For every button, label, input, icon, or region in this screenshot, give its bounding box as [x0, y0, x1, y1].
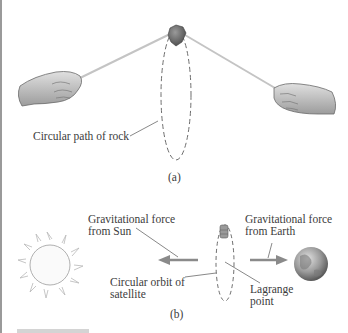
sun-force-label-line2: from Sun: [88, 225, 175, 237]
rock-path-label: Circular path of rock: [33, 130, 129, 142]
rock-icon: [168, 25, 186, 46]
string-right: [185, 35, 275, 88]
earth-force-label-line1: Gravitational force: [245, 213, 332, 225]
sun-force-label: Gravitational force from Sun: [88, 213, 175, 237]
rock-path-ellipse: [161, 30, 191, 160]
lagrange-point-label: Lagrange point: [250, 283, 293, 307]
lagrange-label-line2: point: [250, 295, 293, 307]
rock-path-leader-line: [130, 121, 158, 136]
orbit-label: Circular orbit of satellite: [110, 276, 185, 300]
orbit-leader-line: [185, 273, 216, 277]
earth-force-leader-line: [268, 243, 272, 258]
orbit-label-line1: Circular orbit of: [110, 276, 185, 288]
orbit-label-line2: satellite: [110, 288, 185, 300]
sun-force-arrow: [158, 255, 198, 265]
lagrange-leader-line: [225, 262, 260, 283]
sun-icon: [18, 232, 83, 298]
right-hand-icon: [274, 84, 336, 115]
earth-force-label: Gravitational force from Earth: [245, 213, 332, 237]
earth-icon: [294, 247, 328, 281]
string-left: [80, 35, 168, 78]
sun-force-label-line1: Gravitational force: [88, 213, 175, 225]
satellite-icon: [220, 225, 228, 238]
left-hand-icon: [18, 72, 81, 107]
footer-bar: [17, 329, 89, 333]
figure-b-caption: (b): [170, 308, 183, 320]
earth-force-arrow: [250, 255, 288, 265]
figure-a-caption: (a): [168, 171, 181, 183]
earth-force-label-line2: from Earth: [245, 225, 332, 237]
lagrange-label-line1: Lagrange: [250, 283, 293, 295]
